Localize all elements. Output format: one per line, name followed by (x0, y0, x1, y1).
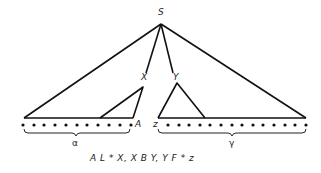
node-s: S (158, 8, 164, 17)
leaf-a: A (135, 120, 141, 129)
gamma-dots (166, 123, 307, 126)
alpha-dots (21, 123, 132, 126)
parse-tree-diagram (0, 0, 321, 173)
edge-s-right (161, 24, 306, 118)
x-subtree (100, 87, 143, 118)
leaf-z: z (153, 120, 158, 129)
gamma-label: γ (229, 139, 234, 148)
gamma-brace (158, 129, 306, 136)
edge-s-left (24, 24, 161, 118)
node-x: X (141, 73, 147, 82)
y-subtree (158, 83, 205, 118)
alpha-brace (24, 129, 130, 136)
edge-s-x (146, 24, 161, 73)
alpha-label: α (72, 139, 78, 148)
production-rules-caption: A L * X, X B Y, Y F * z (90, 153, 194, 163)
node-y: Y (173, 73, 179, 82)
